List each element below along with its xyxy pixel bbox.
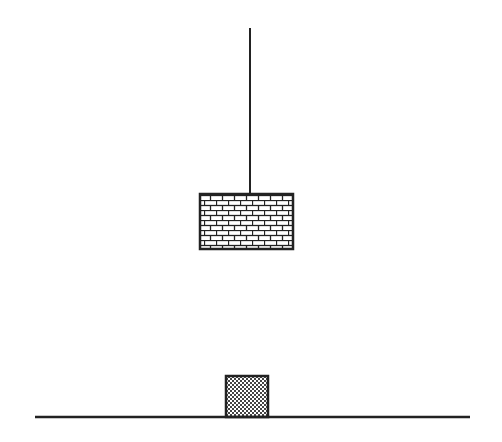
ground-checker-block [226,376,268,417]
diagram-canvas [0,0,502,442]
hanging-brick-block [200,194,293,249]
